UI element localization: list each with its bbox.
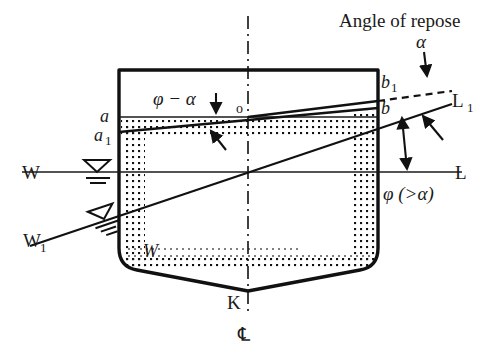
label-centerline-symbol: ℄ — [237, 324, 251, 345]
label-phi-greater-alpha: φ (>α) — [383, 183, 434, 205]
diagram-root: Angle of repose α φ − α φ (>α) o a a 1 b… — [0, 0, 482, 351]
cargo-dot-band-bottom — [121, 258, 377, 270]
svg-text:1: 1 — [391, 80, 398, 95]
label-phi-minus-alpha: φ − α — [153, 88, 197, 109]
svg-text:1: 1 — [467, 100, 474, 115]
svg-text:b: b — [381, 72, 390, 92]
ship-stability-diagram: Angle of repose α φ − α φ (>α) o a a 1 b… — [0, 0, 482, 351]
label-point-a: a — [100, 106, 109, 126]
svg-text:a: a — [94, 125, 103, 145]
label-point-a1: a 1 — [94, 125, 112, 148]
heel-angle-arrow — [402, 118, 407, 169]
label-point-b: b — [381, 98, 390, 118]
alpha-arrow — [424, 52, 427, 76]
svg-text:1: 1 — [105, 133, 112, 148]
label-waterline-W: W — [22, 162, 40, 183]
label-keel-K: K — [227, 292, 241, 313]
label-alpha: α — [416, 31, 427, 52]
svg-text:L: L — [452, 90, 464, 111]
label-point-b1: b 1 — [381, 72, 398, 95]
heeled-waterline-pointer-arrow — [423, 116, 443, 140]
label-point-o: o — [236, 101, 243, 116]
title-angle-of-repose: Angle of repose — [339, 10, 460, 31]
svg-text:W: W — [23, 230, 41, 251]
label-waterline-W1: W 1 — [23, 230, 47, 255]
label-waterline-L1: L 1 — [452, 90, 474, 115]
cargo-fill-group — [121, 110, 377, 270]
cargo-dot-band-port — [123, 126, 145, 268]
label-cargo-mass-W: W — [143, 241, 160, 261]
label-waterline-L: L — [455, 162, 467, 183]
svg-text:1: 1 — [40, 240, 47, 255]
